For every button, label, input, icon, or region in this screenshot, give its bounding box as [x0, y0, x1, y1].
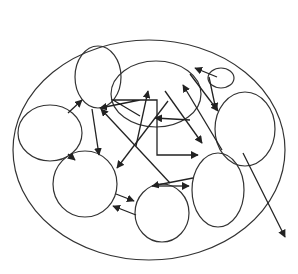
arrow-16 — [113, 206, 136, 215]
diagram-canvas: ’ ’ — [0, 0, 298, 274]
network-diagram — [0, 0, 298, 274]
node-left — [18, 105, 82, 161]
node-top-left — [75, 46, 121, 108]
node-bottom-left — [53, 151, 117, 217]
arrow-7 — [101, 109, 170, 183]
cropped-caption-left: ’ — [10, 0, 12, 6]
shapes-layer — [13, 40, 285, 260]
node-small-top — [208, 68, 234, 88]
cropped-caption-right: ’ — [205, 0, 207, 6]
arrow-8 — [165, 91, 202, 143]
node-bottom-mid — [135, 184, 189, 242]
outer-ellipse — [13, 40, 285, 260]
node-right — [215, 92, 275, 166]
arrow-17 — [152, 178, 193, 186]
arrow-5 — [136, 91, 148, 146]
arrow-1 — [68, 100, 82, 113]
arrow-3 — [92, 109, 99, 155]
arrow-2 — [68, 154, 75, 160]
node-bottom-right — [192, 153, 244, 227]
arrow-15 — [116, 194, 134, 201]
arrow-13 — [209, 77, 216, 110]
arrow-10 — [140, 100, 198, 155]
arrow-14 — [190, 74, 218, 111]
